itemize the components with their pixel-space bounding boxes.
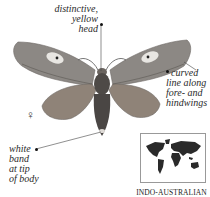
- head-pointer-dot: [100, 23, 103, 26]
- annotation-head-line2: yellow head: [50, 14, 98, 34]
- female-symbol: ♀: [26, 108, 35, 123]
- annotation-band: white band at tip of body: [9, 144, 39, 184]
- annotation-line-line4: hindwings: [166, 98, 207, 108]
- annotation-head: distinctive, yellow head: [50, 4, 98, 34]
- world-map: [140, 133, 206, 183]
- annotation-band-line4: of body: [9, 174, 39, 184]
- region-label: INDO-AUSTRALIAN: [133, 188, 210, 197]
- annotation-curved-line: curved line along fore- and hindwings: [166, 68, 207, 108]
- world-map-icon: [141, 134, 205, 182]
